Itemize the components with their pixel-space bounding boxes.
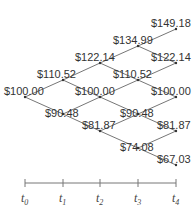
time-axis: t0t1t2t3t4 (21, 179, 179, 207)
time-label: t0 (21, 191, 28, 207)
price-label: $81.87 (82, 119, 116, 131)
price-label: $110.52 (113, 68, 152, 80)
price-label: $81.87 (157, 119, 191, 131)
price-label: $67.03 (157, 153, 191, 165)
price-label: $122.14 (75, 51, 115, 63)
price-label: $100.00 (75, 85, 115, 97)
price-label: $90.48 (120, 107, 154, 119)
tree-nodes (24, 28, 177, 166)
price-label: $100.00 (4, 85, 44, 97)
price-label: $74.08 (120, 141, 154, 153)
binomial-tree-diagram: $100.00$110.52$90.48$122.14$100.00$81.87… (0, 0, 196, 213)
price-label: $122.14 (151, 51, 191, 63)
time-label: t2 (96, 191, 103, 207)
time-label: t1 (59, 191, 66, 207)
time-label: t4 (172, 191, 179, 207)
price-label: $110.52 (37, 68, 76, 80)
price-label: $90.48 (45, 107, 79, 119)
price-labels: $100.00$110.52$90.48$122.14$100.00$81.87… (4, 17, 191, 165)
price-label: $149.18 (151, 17, 191, 29)
price-label: $134.99 (113, 34, 153, 46)
time-label: t3 (134, 191, 141, 207)
price-label: $100.00 (151, 85, 191, 97)
